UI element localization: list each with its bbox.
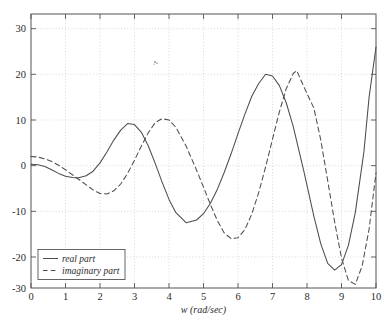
y-tick-marks <box>31 29 376 257</box>
y-tick-label: 0 <box>21 160 26 171</box>
y-tick-label: 30 <box>16 23 27 34</box>
y-tick-label: 10 <box>16 115 27 126</box>
y-tick-labels: 30 20 10 0 -10 -20 -30 <box>12 23 26 293</box>
x-tick-label: 6 <box>235 291 240 302</box>
legend-label-imaginary-part: imaginary part <box>62 266 120 276</box>
y-tick-label: -30 <box>12 283 26 294</box>
x-tick-labels: 0 1 2 3 4 5 6 7 8 9 10 <box>28 291 381 302</box>
y-tick-label: -10 <box>12 206 26 217</box>
scan-artifact-speck <box>154 61 158 65</box>
legend-label-real-part: real part <box>62 254 96 264</box>
x-tick-label: 10 <box>371 291 382 302</box>
x-tick-label: 2 <box>97 291 102 302</box>
horizontal-gridlines <box>31 29 376 257</box>
x-tick-label: 8 <box>304 291 309 302</box>
curve-real-part <box>31 47 376 270</box>
x-tick-label: 9 <box>339 291 344 302</box>
x-tick-label: 5 <box>201 291 206 302</box>
x-tick-label: 7 <box>270 291 275 302</box>
plot-svg: 30 20 10 0 -10 -20 -30 0 1 2 3 4 5 6 7 8… <box>0 0 390 321</box>
x-tick-label: 0 <box>28 291 33 302</box>
x-tick-label: 3 <box>132 291 137 302</box>
x-axis-title: w (rad/sec) <box>181 304 227 316</box>
y-tick-label: 20 <box>16 69 27 80</box>
chart-figure: 30 20 10 0 -10 -20 -30 0 1 2 3 4 5 6 7 8… <box>0 0 390 321</box>
x-tick-label: 4 <box>166 291 172 302</box>
legend: real part imaginary part <box>38 250 125 280</box>
x-tick-label: 1 <box>63 291 68 302</box>
y-tick-label: -20 <box>12 252 26 263</box>
